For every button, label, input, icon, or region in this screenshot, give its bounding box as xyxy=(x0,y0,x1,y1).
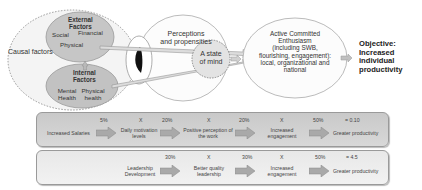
chain1-step-greater-productivity: Greater productivity xyxy=(333,131,378,137)
chain1-x-1: X xyxy=(139,117,142,123)
right-arrow-icon xyxy=(309,165,329,177)
chain1-step-increased-salaries: Increased Salaries xyxy=(47,131,90,137)
perceptions-label: Perceptions and propensities xyxy=(150,30,222,46)
chain2-result: = 4.5 xyxy=(346,154,358,160)
chain2-step-better-leadership: Better quality leadership xyxy=(186,166,232,178)
right-arrow-icon xyxy=(96,127,116,139)
right-arrow-icon xyxy=(235,165,255,177)
state-to-ace-arrow xyxy=(231,55,241,63)
chain2-x-2: X xyxy=(280,154,283,160)
chain1-pct-2: 20% xyxy=(162,117,172,123)
chain2-x-1: X xyxy=(207,154,210,160)
ace-label: Active Committed Enthusiasm (including S… xyxy=(245,30,345,73)
external-factor-financial: Financial xyxy=(78,30,103,37)
chain2-pct-2: 30% xyxy=(242,154,252,160)
chain1-x-3: X xyxy=(280,117,283,123)
external-factors-title: External Factors xyxy=(68,16,93,30)
chain2-step-greater-productivity: Greater productivity xyxy=(333,169,378,175)
chain1-step-increased-engagement: Increased engagement xyxy=(262,128,302,140)
chain2-step-increased-engagement: Increased engagement xyxy=(262,166,302,178)
chain1-step-positive-perception: Positive perception of the work xyxy=(182,128,234,140)
chain1-pct-4: 50% xyxy=(313,117,323,123)
chain1-step-daily-motivation: Daily motivation levels xyxy=(118,128,160,140)
internal-factor-mental-health: Mental Health xyxy=(56,88,78,102)
internal-factor-physical-health: Physical health xyxy=(80,88,106,102)
state-of-mind-label: A state of mind xyxy=(194,50,228,66)
right-arrow-icon xyxy=(309,127,329,139)
right-arrow-icon xyxy=(160,127,180,139)
chain1-pct-1: 5% xyxy=(100,117,108,123)
chain2-pct-3: 50% xyxy=(315,154,325,160)
chain1-pct-3: 20% xyxy=(239,117,249,123)
causal-factors-label: Causal factors xyxy=(8,48,53,56)
right-arrow-icon xyxy=(235,127,255,139)
chain1-x-2: X xyxy=(207,117,210,123)
external-factor-physical: Physical xyxy=(60,42,83,49)
chain2-step-leadership-development: Leadership Development xyxy=(121,166,159,178)
objective-label: Objective: Increased individual producti… xyxy=(359,40,402,74)
right-arrow-icon xyxy=(160,165,180,177)
chain2-pct-1: 30% xyxy=(165,154,175,160)
internal-factors-title: Internal Factors xyxy=(73,69,96,83)
chain1-result: = 0.10 xyxy=(345,117,360,123)
external-factor-social: Social xyxy=(52,32,69,39)
